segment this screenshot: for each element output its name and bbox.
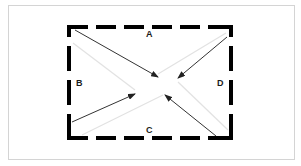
diagram-canvas (0, 0, 301, 166)
arrow-bottom-left (72, 94, 135, 122)
label-a: A (146, 30, 153, 39)
guide-lines (73, 33, 228, 135)
label-b: B (76, 79, 83, 88)
arrow-bottom-right (165, 95, 216, 136)
dashed-rectangle (67, 25, 233, 140)
guide-line-bottom-right (178, 82, 228, 130)
guide-line-top-right (158, 33, 226, 74)
label-c: C (146, 126, 153, 135)
label-d: D (217, 79, 224, 88)
